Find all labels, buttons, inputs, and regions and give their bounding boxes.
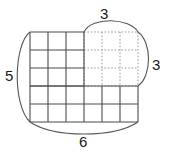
- right-boundary-arc: [138, 32, 149, 86]
- geometry-diagram: 3 3 5 6: [0, 0, 170, 153]
- dimension-label-right: 3: [152, 57, 160, 72]
- top-boundary-arc: [84, 21, 138, 32]
- solid-grid-top-left-group: [30, 32, 84, 86]
- dimension-label-top: 3: [100, 6, 108, 21]
- dimension-label-bottom: 6: [79, 134, 87, 149]
- dimension-label-left: 5: [5, 68, 13, 83]
- left-boundary-arc: [17, 32, 30, 122]
- figure-svg: [0, 0, 170, 153]
- solid-grid-bottom-group: [30, 86, 138, 122]
- dotted-grid-group: [84, 32, 138, 86]
